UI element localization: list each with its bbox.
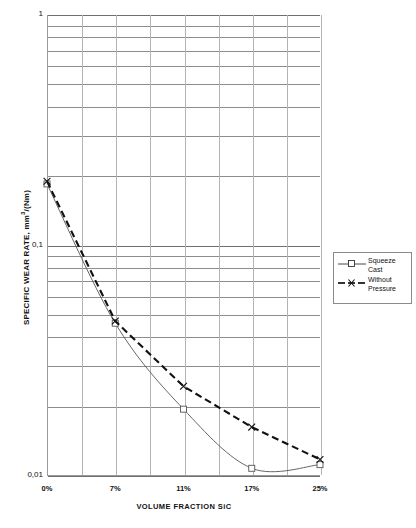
series-without-pressure <box>44 178 324 463</box>
legend-label: Squeeze Cast <box>368 256 396 274</box>
data-point-marker <box>180 383 187 390</box>
data-point-marker <box>317 462 323 468</box>
y-axis-title: SPECIFIC WEAR RATE, mm3/(Nm) <box>20 190 31 325</box>
y-axis-title-tail: /(Nm) <box>22 190 31 211</box>
y-axis-title-exponent: 3 <box>20 211 26 215</box>
legend-item[interactable]: Without Pressure <box>334 275 411 291</box>
series-squeeze-cast <box>44 181 323 472</box>
legend-marker-icon <box>337 256 367 272</box>
wear-rate-chart: 10,10,01 0%7%11%17%25% VOLUME FRACTION S… <box>0 0 416 528</box>
y-axis-title-main: SPECIFIC WEAR RATE, mm <box>22 215 31 325</box>
x-axis-title: VOLUME FRACTION SiC <box>0 502 368 511</box>
data-point-marker <box>249 465 255 471</box>
series-line <box>47 184 320 472</box>
legend: Squeeze CastWithout Pressure <box>333 252 412 304</box>
legend-marker-icon <box>337 275 367 291</box>
series-line <box>47 181 320 459</box>
legend-label: Without Pressure <box>368 275 396 293</box>
data-point-marker <box>181 406 187 412</box>
legend-item[interactable]: Squeeze Cast <box>334 256 411 272</box>
